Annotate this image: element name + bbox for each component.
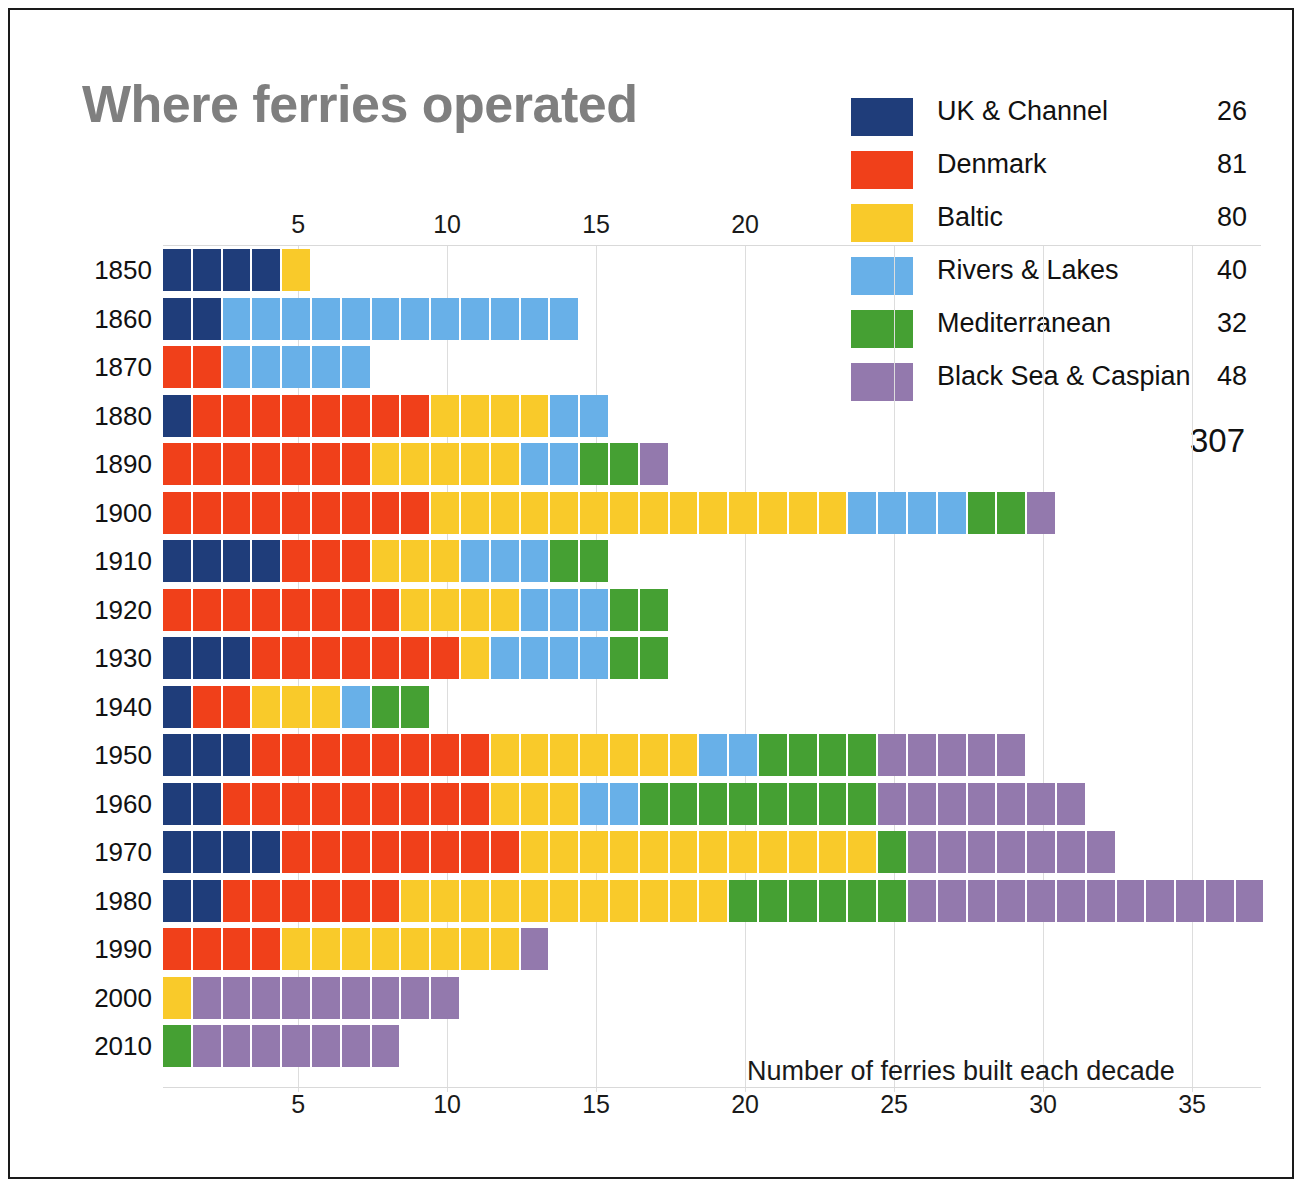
cell	[759, 734, 789, 776]
cell	[342, 783, 372, 825]
row-cells-2000	[163, 977, 461, 1019]
cell	[163, 783, 193, 825]
cell	[550, 540, 580, 582]
row-label-1980: 1980	[82, 886, 152, 917]
cell	[401, 977, 431, 1019]
cell	[252, 249, 282, 291]
cell	[163, 298, 193, 340]
cell	[193, 346, 223, 388]
cell	[252, 298, 282, 340]
cell	[252, 1025, 282, 1067]
cell	[640, 637, 670, 679]
cell	[491, 880, 521, 922]
cell	[431, 928, 461, 970]
cell	[640, 734, 670, 776]
cell	[759, 831, 789, 873]
cell	[223, 540, 253, 582]
cell	[789, 734, 819, 776]
cell	[878, 492, 908, 534]
cell	[252, 686, 282, 728]
cell	[550, 783, 580, 825]
cell	[521, 928, 551, 970]
cell	[550, 589, 580, 631]
cell	[252, 831, 282, 873]
cell	[223, 395, 253, 437]
cell	[431, 734, 461, 776]
cell	[521, 540, 551, 582]
cell	[223, 880, 253, 922]
cell	[282, 298, 312, 340]
cell	[819, 734, 849, 776]
axis-top-tick-20: 20	[731, 210, 759, 239]
legend-label-denmark: Denmark	[937, 149, 1047, 180]
cell	[550, 395, 580, 437]
cell	[252, 977, 282, 1019]
axis-top: 5101520	[163, 210, 1261, 244]
cell	[342, 540, 372, 582]
row-label-1930: 1930	[82, 643, 152, 674]
cell	[610, 831, 640, 873]
cell	[342, 395, 372, 437]
row-cells-1870	[163, 346, 372, 388]
cell	[193, 686, 223, 728]
cell	[461, 734, 491, 776]
row-cells-1990	[163, 928, 550, 970]
cell	[997, 734, 1027, 776]
cell	[1117, 880, 1147, 922]
chart-row: 1920	[82, 586, 1262, 635]
row-label-1960: 1960	[82, 789, 152, 820]
axis-bottom-tick-30: 30	[1029, 1090, 1057, 1119]
cell	[163, 492, 193, 534]
cell	[461, 443, 491, 485]
cell	[193, 637, 223, 679]
page-title: Where ferries operated	[82, 74, 637, 134]
cell	[163, 540, 193, 582]
cell	[223, 249, 253, 291]
cell	[401, 298, 431, 340]
cell	[848, 831, 878, 873]
cell	[461, 540, 491, 582]
cell	[193, 540, 223, 582]
cell	[938, 492, 968, 534]
cell	[252, 346, 282, 388]
cell	[282, 637, 312, 679]
cell	[878, 734, 908, 776]
cell	[282, 589, 312, 631]
cell	[699, 831, 729, 873]
cell	[461, 637, 491, 679]
legend-item-uk[interactable]: UK & Channel26	[851, 94, 1271, 147]
cell	[550, 443, 580, 485]
waffle-chart: 5101520 18501860187018801890190019101920…	[82, 210, 1262, 1120]
cell	[252, 443, 282, 485]
cell	[401, 686, 431, 728]
cell	[282, 492, 312, 534]
cell	[163, 346, 193, 388]
cell	[223, 1025, 253, 1067]
cell	[848, 783, 878, 825]
cell	[848, 880, 878, 922]
cell	[580, 831, 610, 873]
cell	[312, 443, 342, 485]
cell	[372, 928, 402, 970]
cell	[193, 734, 223, 776]
cell	[848, 492, 878, 534]
row-label-1890: 1890	[82, 449, 152, 480]
cell	[312, 492, 342, 534]
cell	[729, 783, 759, 825]
cell	[372, 395, 402, 437]
axis-bottom-tick-5: 5	[291, 1090, 305, 1119]
cell	[431, 831, 461, 873]
cell	[282, 395, 312, 437]
chart-row: 1860	[82, 295, 1262, 344]
legend-item-denmark[interactable]: Denmark81	[851, 147, 1271, 200]
cell	[580, 540, 610, 582]
cell	[580, 443, 610, 485]
legend-count-uk: 26	[1187, 96, 1247, 127]
cell	[521, 298, 551, 340]
cell	[252, 589, 282, 631]
cell	[282, 1025, 312, 1067]
cell	[610, 589, 640, 631]
cell	[461, 395, 491, 437]
cell	[640, 880, 670, 922]
cell	[193, 298, 223, 340]
